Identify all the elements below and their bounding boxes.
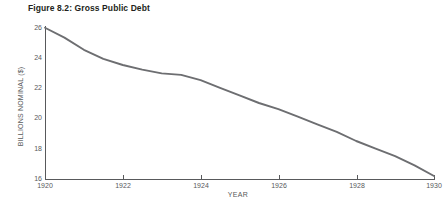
x-axis-line — [45, 179, 435, 180]
figure-container: Figure 8.2: Gross Public Debt 26 24 22 2… — [0, 0, 447, 206]
x-tick-mark — [434, 175, 435, 179]
x-axis-title: YEAR — [198, 191, 278, 198]
y-axis-line — [45, 26, 46, 180]
x-tick-mark — [201, 175, 202, 179]
x-tick-label: 1930 — [414, 182, 447, 190]
chart-title: Figure 8.2: Gross Public Debt — [28, 3, 150, 13]
x-tick-mark — [279, 175, 280, 179]
line-series-gross-public-debt — [45, 28, 434, 176]
x-tick-label: 1924 — [181, 182, 221, 190]
x-tick-label: 1928 — [337, 182, 377, 190]
y-axis-title: BILLIONS NOMINAL ($) — [17, 37, 24, 177]
x-tick-label: 1926 — [259, 182, 299, 190]
x-tick-label: 1922 — [103, 182, 143, 190]
y-tick-label: 26 — [16, 24, 42, 31]
data-series-layer — [0, 0, 447, 206]
x-tick-mark — [357, 175, 358, 179]
x-tick-mark — [123, 175, 124, 179]
x-tick-label: 1920 — [25, 182, 65, 190]
x-tick-mark — [45, 175, 46, 179]
